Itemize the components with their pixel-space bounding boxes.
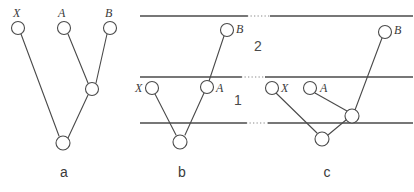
edge-a-ancestor xyxy=(315,93,347,111)
edge-b-ancestor xyxy=(355,38,382,110)
node-b[interactable] xyxy=(221,24,234,37)
tip-label-x: X xyxy=(12,6,21,20)
panel-a-nodes xyxy=(12,22,117,151)
node-ancestor-ab[interactable] xyxy=(345,109,359,123)
panel-caption-a: a xyxy=(60,164,68,180)
edge-b-ancestor xyxy=(96,34,107,83)
panel-b-labels: X A B b xyxy=(134,22,244,180)
figure-svg: X A B a xyxy=(0,0,414,192)
node-root[interactable] xyxy=(56,136,70,150)
edge-ancestor-root xyxy=(328,120,346,135)
node-a[interactable] xyxy=(58,22,71,35)
edge-ancestor-root xyxy=(68,95,88,138)
tip-label-x: X xyxy=(280,81,289,95)
tip-label-a: A xyxy=(319,81,328,95)
panel-caption-c: c xyxy=(324,164,331,180)
panel-b: X A B b xyxy=(134,16,248,180)
edge-a-root xyxy=(185,93,204,135)
node-root[interactable] xyxy=(173,135,187,149)
panel-c: X A B c xyxy=(265,16,413,180)
node-x[interactable] xyxy=(146,82,159,95)
edge-b-a xyxy=(209,36,224,81)
panel-caption-b: b xyxy=(178,164,186,180)
edge-x-root xyxy=(21,34,59,136)
tip-label-b: B xyxy=(394,23,402,37)
panel-c-edges xyxy=(276,38,382,135)
node-a[interactable] xyxy=(304,82,317,95)
node-x[interactable] xyxy=(12,22,25,35)
tip-label-a: A xyxy=(57,6,66,20)
layer-labels: 2 1 xyxy=(234,38,262,108)
edge-x-root xyxy=(276,93,317,133)
tip-label-b: B xyxy=(105,6,113,20)
panel-c-labels: X A B c xyxy=(280,23,402,180)
node-b[interactable] xyxy=(104,22,117,35)
node-root[interactable] xyxy=(315,132,329,146)
dotted-connectors xyxy=(241,16,271,123)
layer-label-1: 1 xyxy=(234,92,242,108)
tip-label-b: B xyxy=(236,22,244,36)
node-b[interactable] xyxy=(379,26,392,39)
edge-x-root xyxy=(155,94,176,135)
node-a[interactable] xyxy=(201,81,214,94)
edge-a-ancestor xyxy=(68,34,88,83)
figure-canvas: X A B a xyxy=(0,0,414,192)
node-x[interactable] xyxy=(266,82,279,95)
node-ancestor-ab[interactable] xyxy=(86,83,99,96)
panel-a: X A B a xyxy=(12,6,117,180)
layer-label-2: 2 xyxy=(254,38,262,54)
tip-label-a: A xyxy=(215,81,224,95)
tip-label-x: X xyxy=(134,81,143,95)
